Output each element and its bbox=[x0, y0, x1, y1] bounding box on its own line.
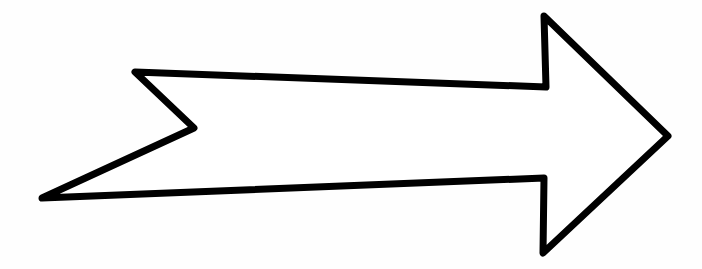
drawing-canvas bbox=[0, 0, 702, 269]
right-arrow-icon bbox=[0, 0, 702, 269]
arrow-outline bbox=[42, 16, 668, 253]
